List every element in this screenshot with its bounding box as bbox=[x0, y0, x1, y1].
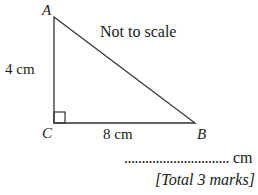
side-label-ac: 4 cm bbox=[5, 62, 35, 77]
vertex-label-c: C bbox=[42, 126, 52, 141]
side-label-cb: 8 cm bbox=[103, 127, 133, 142]
total-marks: [Total 3 marks] bbox=[155, 172, 255, 188]
vertex-label-b: B bbox=[197, 127, 206, 142]
answer-line: .............................. cm bbox=[124, 150, 253, 166]
answer-unit: cm bbox=[233, 149, 253, 166]
not-to-scale-note: Not to scale bbox=[100, 24, 176, 40]
vertex-label-a: A bbox=[42, 3, 51, 18]
answer-blank: .............................. bbox=[124, 149, 229, 166]
right-angle-marker bbox=[54, 112, 65, 123]
